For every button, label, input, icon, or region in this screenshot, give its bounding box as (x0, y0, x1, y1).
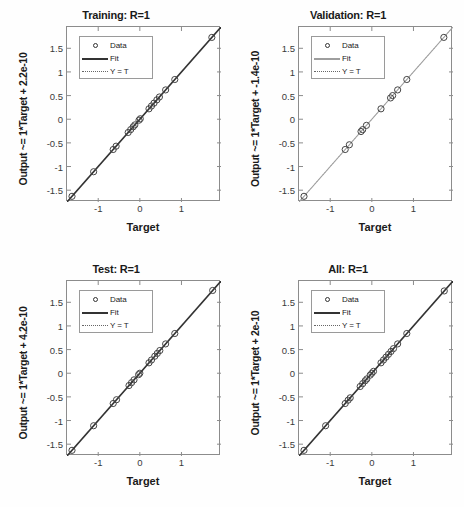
legend-label-identity: Y = T (110, 67, 129, 76)
legend-label-identity: Y = T (342, 321, 361, 330)
y-tick-label: 0 (290, 368, 295, 379)
panel-all: All: R=1 Output ~= 1*Target + 2e-10 1.51… (232, 254, 464, 507)
legend-item-fit: Fit (80, 52, 152, 65)
panel-title-test: Test: R=1 (0, 263, 232, 275)
y-axis-label-test: Output ~= 1*Target + 4.2e-10 (17, 288, 29, 458)
x-tick-label: 0 (137, 203, 142, 214)
x-tick-label: -1 (326, 203, 334, 214)
legend: DataFitY = T (79, 36, 153, 79)
y-tick-label: 1 (58, 66, 63, 77)
y-tick-label: -0.5 (279, 391, 295, 402)
x-axis-label-validation: Target (298, 221, 452, 233)
y-axis-label-all: Output ~= 1*Target + 2e-10 (249, 288, 261, 458)
panel-training: Training: R=1 Output ~= 1*Target + 2.2e-… (0, 0, 232, 253)
circle-marker-icon (312, 43, 342, 48)
y-tick-label: -0.5 (47, 137, 63, 148)
y-tick-label: 1.5 (50, 297, 63, 308)
legend-item-identity: Y = T (80, 319, 152, 332)
circle-marker-icon (80, 297, 110, 302)
legend-label-data: Data (110, 295, 127, 304)
x-tick-label: -1 (326, 457, 334, 468)
x-axis-label-all: Target (298, 475, 452, 487)
y-tick-label: -1.5 (279, 185, 295, 196)
legend: DataFitY = T (79, 290, 153, 333)
x-tick-label: -1 (94, 203, 102, 214)
y-tick-label: -1.5 (279, 439, 295, 450)
legend-item-fit: Fit (312, 306, 384, 319)
legend-item-identity: Y = T (312, 65, 384, 78)
y-tick-label: 1.5 (50, 43, 63, 54)
y-tick-label: -1 (55, 161, 63, 172)
plot-area-test: 1.510.50-0.5-1-1.5-101DataFitY = T (66, 280, 220, 455)
dotted-line-icon (312, 325, 342, 326)
y-tick-label: 0.5 (282, 344, 295, 355)
legend-item-fit: Fit (80, 306, 152, 319)
x-tick-label: 1 (179, 457, 184, 468)
legend-label-fit: Fit (342, 54, 351, 63)
legend-label-fit: Fit (342, 308, 351, 317)
circle-marker-icon (80, 43, 110, 48)
x-tick-label: 0 (369, 457, 374, 468)
y-tick-label: 0 (58, 114, 63, 125)
solid-line-icon (312, 312, 342, 314)
legend-label-identity: Y = T (342, 67, 361, 76)
x-tick-label: 0 (137, 457, 142, 468)
y-tick-label: 1.5 (282, 297, 295, 308)
x-tick-label: 0 (369, 203, 374, 214)
dotted-line-icon (80, 71, 110, 72)
legend-label-data: Data (342, 41, 359, 50)
x-tick-label: 1 (411, 203, 416, 214)
legend-item-data: Data (80, 39, 152, 52)
y-axis-label-validation: Output ~= 1*Target + -1.4e-10 (249, 34, 261, 204)
legend-item-identity: Y = T (80, 65, 152, 78)
legend-label-fit: Fit (110, 54, 119, 63)
y-tick-label: 1 (290, 66, 295, 77)
plot-area-training: 1.510.50-0.5-1-1.5-101DataFitY = T (66, 26, 220, 201)
y-tick-label: 0 (290, 114, 295, 125)
legend-label-identity: Y = T (110, 321, 129, 330)
solid-line-icon (80, 58, 110, 60)
dotted-line-icon (312, 71, 342, 72)
plot-area-all: 1.510.50-0.5-1-1.5-101DataFitY = T (298, 280, 452, 455)
y-tick-label: -1 (287, 161, 295, 172)
legend-label-data: Data (342, 295, 359, 304)
y-tick-label: 1.5 (282, 43, 295, 54)
y-tick-label: 0.5 (50, 344, 63, 355)
x-axis-label-training: Target (66, 221, 220, 233)
y-tick-label: 0 (58, 368, 63, 379)
x-tick-label: 1 (179, 203, 184, 214)
legend-item-data: Data (80, 293, 152, 306)
dotted-line-icon (80, 325, 110, 326)
y-tick-label: -1.5 (47, 185, 63, 196)
solid-line-icon (80, 312, 110, 314)
legend-item-data: Data (312, 293, 384, 306)
y-tick-label: 1 (290, 320, 295, 331)
x-axis-label-test: Target (66, 475, 220, 487)
x-tick-label: -1 (94, 457, 102, 468)
panel-title-training: Training: R=1 (0, 9, 232, 21)
y-tick-label: 1 (58, 320, 63, 331)
solid-line-icon (312, 58, 342, 60)
legend-item-identity: Y = T (312, 319, 384, 332)
circle-marker-icon (312, 297, 342, 302)
legend-item-fit: Fit (312, 52, 384, 65)
legend-label-fit: Fit (110, 308, 119, 317)
legend: DataFitY = T (311, 290, 385, 333)
panel-test: Test: R=1 Output ~= 1*Target + 4.2e-10 1… (0, 254, 232, 507)
panel-validation: Validation: R=1 Output ~= 1*Target + -1.… (232, 0, 464, 253)
regression-figure: Training: R=1 Output ~= 1*Target + 2.2e-… (0, 0, 464, 507)
y-tick-label: -1 (55, 415, 63, 426)
y-tick-label: 0.5 (50, 90, 63, 101)
y-tick-label: -1 (287, 415, 295, 426)
legend-label-data: Data (110, 41, 127, 50)
y-tick-label: -0.5 (47, 391, 63, 402)
y-tick-label: -1.5 (47, 439, 63, 450)
y-tick-label: 0.5 (282, 90, 295, 101)
legend: DataFitY = T (311, 36, 385, 79)
plot-area-validation: 1.510.50-0.5-1-1.5-101DataFitY = T (298, 26, 452, 201)
y-tick-label: -0.5 (279, 137, 295, 148)
y-axis-label-training: Output ~= 1*Target + 2.2e-10 (17, 34, 29, 204)
legend-item-data: Data (312, 39, 384, 52)
panel-title-validation: Validation: R=1 (232, 9, 464, 21)
panel-title-all: All: R=1 (232, 263, 464, 275)
